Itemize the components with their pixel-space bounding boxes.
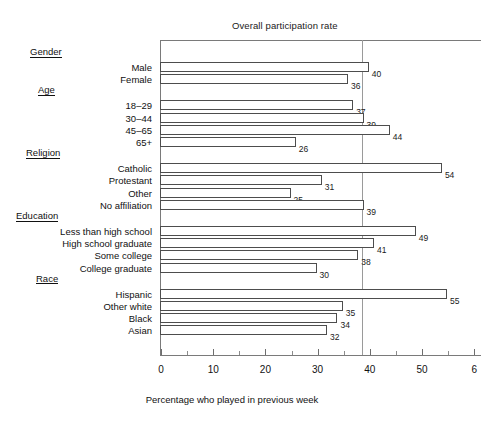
x-minor-tick-55 xyxy=(448,351,449,355)
x-tick-label-0: 0 xyxy=(141,365,181,375)
x-tick-label-40: 40 xyxy=(350,365,390,375)
bar-female xyxy=(160,74,348,84)
bar-some-college xyxy=(160,250,358,260)
bar-value-45-65: 44 xyxy=(393,133,402,142)
bar-asian xyxy=(160,325,327,335)
x-tick-30 xyxy=(318,349,319,355)
x-tick-40 xyxy=(370,349,371,355)
category-label-high-school-graduate: High school graduate xyxy=(0,239,152,249)
bar-45-65 xyxy=(160,125,390,135)
bar-protestant xyxy=(160,175,322,185)
bar-other xyxy=(160,188,291,198)
group-label-age: Age xyxy=(38,85,55,96)
x-minor-tick-5 xyxy=(187,351,188,355)
x-minor-tick-15 xyxy=(239,351,240,355)
category-label-catholic: Catholic xyxy=(0,164,152,174)
x-tick-0 xyxy=(161,349,162,355)
bar-value-college-graduate: 30 xyxy=(320,271,329,280)
bar-value-catholic: 54 xyxy=(445,171,454,180)
category-label-45-65: 45–65 xyxy=(0,126,152,136)
category-label-male: Male xyxy=(0,63,152,73)
bar-30-44 xyxy=(160,113,364,123)
bar-value-black: 34 xyxy=(340,321,349,330)
x-tick-10 xyxy=(213,349,214,355)
plot-top-border xyxy=(160,40,481,41)
bar-chart: Overall participation rate 4036373944265… xyxy=(0,0,488,423)
group-label-education: Education xyxy=(16,211,58,222)
category-label-asian: Asian xyxy=(0,326,152,336)
category-label-other-white: Other white xyxy=(0,302,152,312)
x-minor-tick-45 xyxy=(396,351,397,355)
bar-value-male: 40 xyxy=(372,70,381,79)
category-label-18-29: 18–29 xyxy=(0,101,152,111)
bar-value-65: 26 xyxy=(299,145,308,154)
category-label-female: Female xyxy=(0,75,152,85)
x-tick-label-10: 10 xyxy=(193,365,233,375)
category-label-65: 65+ xyxy=(0,138,152,148)
group-label-religion: Religion xyxy=(26,148,60,159)
x-tick-20 xyxy=(265,349,266,355)
category-label-some-college: Some college xyxy=(0,251,152,261)
bar-high-school-graduate xyxy=(160,238,374,248)
bar-value-no-affiliation: 39 xyxy=(367,208,376,217)
x-tick-label-6: 6 xyxy=(454,365,488,375)
bar-value-some-college: 38 xyxy=(361,258,370,267)
bar-value-high-school-graduate: 41 xyxy=(377,246,386,255)
group-label-race: Race xyxy=(36,274,58,285)
bar-catholic xyxy=(160,163,442,173)
x-minor-tick-35 xyxy=(344,351,345,355)
bar-college-graduate xyxy=(160,263,317,273)
bar-black xyxy=(160,313,337,323)
overall-reference-line xyxy=(362,40,363,355)
bar-value-hispanic: 55 xyxy=(450,297,459,306)
bar-value-other-white: 35 xyxy=(346,309,355,318)
bar-18-29 xyxy=(160,100,353,110)
category-label-no-affiliation: No affiliation xyxy=(0,201,152,211)
bar-65 xyxy=(160,137,296,147)
bar-value-protestant: 31 xyxy=(325,183,334,192)
x-tick-6 xyxy=(474,349,475,355)
x-axis-line xyxy=(160,355,481,356)
category-label-other: Other xyxy=(0,189,152,199)
category-label-black: Black xyxy=(0,314,152,324)
reference-line-title: Overall participation rate xyxy=(232,20,338,31)
x-minor-tick-25 xyxy=(292,351,293,355)
x-tick-label-30: 30 xyxy=(298,365,338,375)
category-label-protestant: Protestant xyxy=(0,176,152,186)
x-tick-label-20: 20 xyxy=(245,365,285,375)
category-label-30-44: 30–44 xyxy=(0,114,152,124)
bar-other-white xyxy=(160,301,343,311)
category-label-less-than-high-school: Less than high school xyxy=(0,227,152,237)
category-label-college-graduate: College graduate xyxy=(0,264,152,274)
bar-hispanic xyxy=(160,289,447,299)
x-axis-title: Percentage who played in previous week xyxy=(146,395,319,405)
bar-no-affiliation xyxy=(160,200,364,210)
bar-less-than-high-school xyxy=(160,226,416,236)
bar-value-less-than-high-school: 49 xyxy=(419,234,428,243)
bar-value-asian: 32 xyxy=(330,333,339,342)
group-label-gender: Gender xyxy=(30,47,62,58)
category-label-hispanic: Hispanic xyxy=(0,290,152,300)
x-tick-50 xyxy=(422,349,423,355)
bar-male xyxy=(160,62,369,72)
bar-value-female: 36 xyxy=(351,82,360,91)
x-tick-label-50: 50 xyxy=(402,365,442,375)
